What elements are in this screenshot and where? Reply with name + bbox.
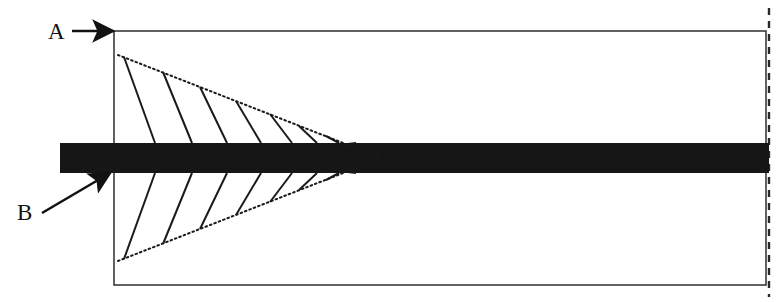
lower-hatch-line-4 (236, 173, 261, 215)
upper-hatch-line-4 (236, 101, 261, 143)
lower-wedge-dotted-edge (118, 159, 379, 261)
figure-canvas: A B (0, 0, 779, 302)
upper-hatch-line-1 (124, 57, 155, 143)
label-a-text: A (48, 19, 65, 44)
label-b-arrow (42, 173, 110, 213)
upper-wedge-dotted-edge (118, 55, 379, 157)
horizontal-dark-bar (60, 143, 769, 173)
lower-hatch-line-1 (124, 173, 155, 259)
technical-diagram: A B (0, 0, 779, 302)
label-b-text: B (17, 200, 32, 225)
